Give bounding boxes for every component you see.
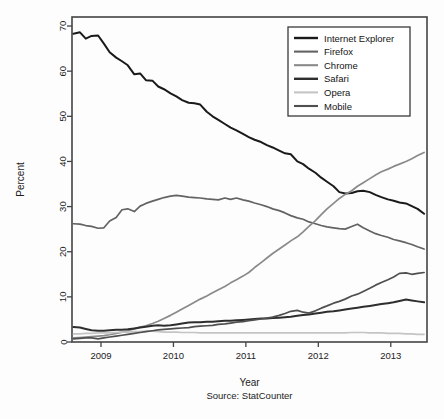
y-axis-title: Percent <box>15 162 26 197</box>
y-tick-label: 70 <box>58 21 69 32</box>
y-axis-ticks: 010203040506070 <box>58 21 73 345</box>
legend-label-safari[interactable]: Safari <box>324 73 349 84</box>
x-tick-label: 2013 <box>380 350 401 361</box>
x-tick-label: 2011 <box>236 350 256 361</box>
legend-label-firefox[interactable]: Firefox <box>324 46 353 57</box>
legend-label-opera[interactable]: Opera <box>324 87 351 98</box>
legend-label-chrome[interactable]: Chrome <box>324 60 358 71</box>
chart-screenshot: 010203040506070 20092010201120122013 Int… <box>0 0 444 419</box>
y-tick-label: 10 <box>58 292 69 303</box>
y-tick-label: 0 <box>58 339 69 344</box>
series-line-firefox <box>73 195 424 249</box>
chart-legend: Internet ExplorerFirefoxChromeSafariOper… <box>288 27 410 116</box>
browser-share-line-chart: 010203040506070 20092010201120122013 Int… <box>0 0 444 419</box>
x-tick-label: 2009 <box>90 350 111 361</box>
y-tick-label: 20 <box>58 246 69 257</box>
legend-label-internet-explorer[interactable]: Internet Explorer <box>324 33 394 44</box>
y-tick-label: 60 <box>58 66 69 77</box>
legend-label-mobile[interactable]: Mobile <box>324 101 352 112</box>
y-tick-label: 30 <box>58 201 69 212</box>
x-axis-ticks: 20092010201120122013 <box>90 342 401 361</box>
y-tick-label: 40 <box>58 156 69 167</box>
axis-titles: PercentYearSource: StatCounter <box>15 162 293 401</box>
series-line-safari <box>73 300 424 331</box>
x-tick-label: 2012 <box>308 350 329 361</box>
x-axis-title: Year <box>239 377 260 388</box>
x-tick-label: 2010 <box>163 350 184 361</box>
series-line-chrome <box>73 152 424 338</box>
source-caption: Source: StatCounter <box>206 390 292 401</box>
y-tick-label: 50 <box>58 111 69 122</box>
